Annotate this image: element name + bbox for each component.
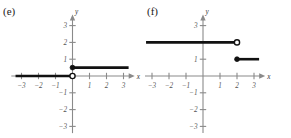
x-tick-label: 1 xyxy=(88,82,92,90)
x-tick-label: −2 xyxy=(34,82,43,90)
y-tick-label: 1 xyxy=(194,56,198,64)
figure-container: (e) −3−2−1123321−1−2−3xy (f) −3−2−112331… xyxy=(0,0,291,138)
y-tick-label: −1 xyxy=(189,89,197,97)
y-tick-label: −3 xyxy=(59,123,68,131)
x-tick-label: −1 xyxy=(51,82,59,90)
panel-e-plot: −3−2−1123321−1−2−3xy xyxy=(0,0,145,138)
x-tick-label: −1 xyxy=(182,82,190,90)
panel-f-plot: −3−2−112331−1−2−3xy xyxy=(145,0,291,138)
x-tick-label: 3 xyxy=(121,82,126,90)
y-axis-label: y xyxy=(74,8,79,16)
x-tick-label: 3 xyxy=(251,82,256,90)
y-tick-label: −3 xyxy=(189,123,198,131)
y-axis-label: y xyxy=(205,8,210,16)
y-tick-label: 1 xyxy=(63,56,67,64)
panel-e: (e) −3−2−1123321−1−2−3xy xyxy=(0,0,145,138)
y-tick-label: −1 xyxy=(59,89,67,97)
endpoint-closed-endpoint-half xyxy=(70,65,75,70)
x-tick-label: 2 xyxy=(105,82,109,90)
endpoint-open-endpoint-upper xyxy=(234,40,239,45)
y-tick-label: 3 xyxy=(193,22,198,30)
y-tick-label: 3 xyxy=(62,22,67,30)
x-tick-label: 2 xyxy=(235,82,239,90)
x-tick-label: 1 xyxy=(218,82,222,90)
x-axis-label: x xyxy=(266,73,271,81)
y-tick-label: 2 xyxy=(63,39,67,47)
x-tick-label: −3 xyxy=(17,82,26,90)
panel-f: (f) −3−2−112331−1−2−3xy xyxy=(145,0,291,138)
endpoint-closed-endpoint-lower xyxy=(235,57,240,62)
y-tick-label: −2 xyxy=(189,106,198,114)
x-tick-label: −3 xyxy=(148,82,157,90)
endpoint-open-endpoint-origin xyxy=(70,73,75,78)
x-axis-label: x xyxy=(136,73,141,81)
x-tick-label: −2 xyxy=(165,82,174,90)
y-tick-label: −2 xyxy=(59,106,68,114)
